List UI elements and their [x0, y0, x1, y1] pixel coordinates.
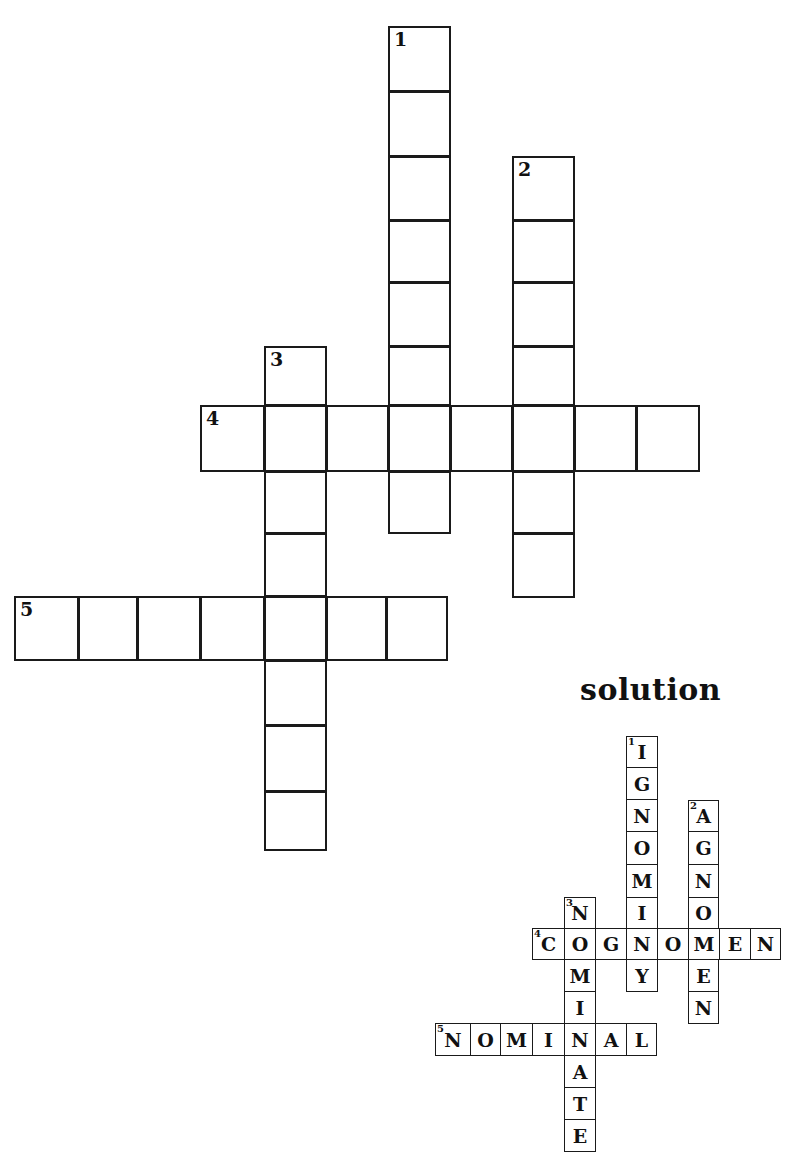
solution-letter: O	[689, 898, 718, 928]
solution-letter: M	[689, 929, 719, 959]
solution-letter: I	[627, 898, 657, 928]
solution-cell: G	[595, 928, 627, 960]
solution-letter: G	[689, 832, 718, 864]
clue-number: 4	[534, 929, 541, 939]
solution-cell: M	[688, 928, 720, 960]
solution-cell: O	[470, 1023, 501, 1056]
solution-letter: L	[627, 1024, 656, 1055]
solution-cell: M	[564, 959, 596, 992]
solution-cell: O	[564, 928, 596, 960]
solution-cell: E	[688, 959, 719, 992]
solution-letter: E	[689, 960, 718, 991]
solution-cell: C4	[532, 928, 565, 960]
solution-letter: N	[565, 1024, 595, 1055]
solution-cell: O	[688, 897, 719, 929]
solution-cell: A	[564, 1055, 596, 1088]
solution-letter: N	[751, 929, 780, 959]
solution-cell: L	[626, 1023, 657, 1056]
solution-cell: G	[626, 767, 658, 800]
solution-letter: G	[627, 768, 657, 799]
solution-letter: E	[565, 1120, 595, 1151]
solution-cell: N	[564, 1023, 596, 1056]
solution-cell: I	[626, 897, 658, 929]
solution-cell: Y	[626, 959, 658, 992]
solution-cell: I	[532, 1023, 565, 1056]
solution-letter: O	[627, 832, 657, 864]
solution-letter: A	[596, 1024, 626, 1055]
clue-number: 3	[566, 898, 573, 908]
solution-letter: I	[565, 992, 595, 1023]
solution-cell: I1	[626, 736, 658, 768]
solution-letter: E	[720, 929, 750, 959]
solution-letter: N	[689, 865, 718, 897]
solution-letter: N	[627, 929, 657, 959]
solution-cell: N	[750, 928, 781, 960]
clue-number: 2	[690, 801, 697, 811]
solution-letter: O	[471, 1024, 500, 1055]
clue-number: 1	[628, 737, 635, 747]
solution-letter: N	[689, 992, 718, 1023]
solution-cell: E	[564, 1119, 596, 1152]
solution-cell: E	[719, 928, 751, 960]
solution-cell: N3	[564, 897, 596, 929]
solution-letter: N	[627, 800, 657, 831]
crossword-solution-grid: I1GNOMIYA2GNOENN3MIATEC4OGNOMENN5OMINAL	[0, 0, 796, 1164]
solution-letter: T	[565, 1088, 595, 1119]
solution-cell: N	[688, 864, 719, 898]
solution-letter: G	[596, 929, 626, 959]
solution-letter: M	[565, 960, 595, 991]
solution-cell: A	[595, 1023, 627, 1056]
solution-cell: N	[688, 991, 719, 1024]
solution-letter: M	[627, 865, 657, 897]
solution-cell: I	[564, 991, 596, 1024]
solution-letter: O	[565, 929, 595, 959]
solution-letter: M	[501, 1024, 532, 1055]
clue-number: 5	[437, 1024, 444, 1034]
solution-cell: O	[657, 928, 689, 960]
solution-cell: A2	[688, 800, 719, 832]
solution-letter: A	[565, 1056, 595, 1087]
solution-letter: I	[533, 1024, 564, 1055]
solution-cell: N5	[435, 1023, 471, 1056]
solution-cell: M	[626, 864, 658, 898]
solution-cell: M	[500, 1023, 533, 1056]
solution-letter: Y	[627, 960, 657, 991]
solution-cell: N	[626, 799, 658, 832]
solution-cell: N	[626, 928, 658, 960]
solution-cell: G	[688, 831, 719, 865]
solution-letter: O	[658, 929, 688, 959]
solution-cell: O	[626, 831, 658, 865]
solution-cell: T	[564, 1087, 596, 1120]
